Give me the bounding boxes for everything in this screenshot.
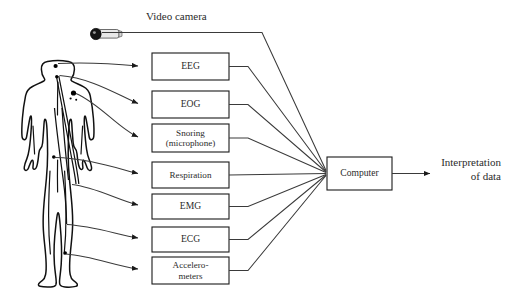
- sensor-box-ecg[interactable]: ECG: [152, 227, 229, 252]
- sensor-box-accelerometers-label: Accelero-: [173, 260, 209, 270]
- sensor-box-ecg-label: ECG: [181, 233, 200, 244]
- sensor-box-eeg[interactable]: EEG: [152, 53, 229, 80]
- sensor-box-emg[interactable]: EMG: [152, 194, 229, 219]
- sensor-box-emg-label: EMG: [180, 200, 201, 211]
- sensor-box-snoring-label: Snoring: [176, 128, 205, 138]
- video-camera-label: Video camera: [146, 10, 207, 22]
- sensor-box-snoring-sublabel: (microphone): [166, 138, 216, 148]
- sleep-monitoring-diagram: EEG EOG Snoring (microphone) Respiration: [0, 0, 505, 304]
- sensor-boxes: EEG EOG Snoring (microphone) Respiration: [152, 53, 229, 284]
- output-label-line1: Interpretation: [441, 156, 501, 168]
- sensor-box-eog-label: EOG: [181, 98, 201, 109]
- video-camera-icon: [91, 28, 123, 39]
- human-body-silhouette: [22, 61, 94, 288]
- computer-box[interactable]: Computer: [327, 157, 392, 190]
- sensor-box-eeg-label: EEG: [181, 60, 200, 71]
- sensor-box-eog[interactable]: EOG: [152, 91, 229, 118]
- sensor-box-respiration[interactable]: Respiration: [152, 162, 229, 188]
- computer-box-label: Computer: [340, 167, 379, 178]
- sensor-box-respiration-label: Respiration: [170, 170, 212, 180]
- sensor-to-computer-lines: [229, 67, 326, 271]
- sensor-box-snoring[interactable]: Snoring (microphone): [152, 124, 229, 152]
- diagram-canvas: EEG EOG Snoring (microphone) Respiration: [0, 0, 505, 304]
- sensor-box-accelerometers-sublabel: meters: [178, 271, 203, 281]
- sensor-box-accelerometers[interactable]: Accelero- meters: [152, 257, 229, 284]
- output-label-line2: of data: [471, 170, 501, 182]
